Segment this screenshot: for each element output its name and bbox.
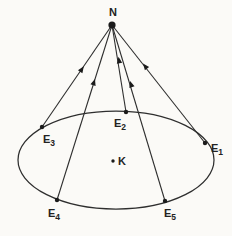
arrowhead-E3 <box>78 66 84 73</box>
ray-E2-to-N <box>112 25 126 112</box>
point-dot-E2 <box>124 110 128 114</box>
cone-ellipse-diagram: E3E4E2E5E1NK <box>0 0 232 236</box>
interior-dot-K <box>111 159 114 162</box>
point-label-E2: E2 <box>114 117 126 132</box>
apex-label-N: N <box>109 6 117 18</box>
point-dot-E3 <box>40 125 44 129</box>
point-dot-E4 <box>55 198 59 202</box>
arrowhead-E1 <box>143 63 149 70</box>
point-label-E3: E3 <box>43 133 55 148</box>
arrowhead-E5 <box>129 81 134 88</box>
ray-E5-to-N <box>112 25 165 201</box>
apex-dot-N <box>108 21 115 28</box>
cone-ellipse-figure: E3E4E2E5E1NK <box>0 0 232 236</box>
point-dot-E5 <box>163 199 167 203</box>
point-dot-E1 <box>203 141 207 145</box>
ray-E4-to-N <box>57 25 112 200</box>
point-label-E5: E5 <box>164 207 176 222</box>
arrowhead-E4 <box>90 79 95 86</box>
interior-label-K: K <box>118 155 126 167</box>
point-label-E4: E4 <box>48 207 60 222</box>
